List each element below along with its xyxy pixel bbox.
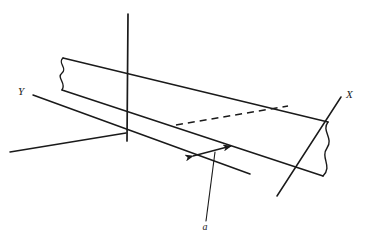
- vector-a-group: [193, 146, 231, 221]
- vector-a-leader-line: [206, 152, 215, 221]
- plane-right-wavy-edge: [323, 122, 329, 176]
- plane-outline: [60, 58, 329, 176]
- vector-a-arrow: [193, 146, 231, 156]
- plane-bottom-edge: [62, 90, 323, 176]
- coordinate-axes: [10, 14, 341, 196]
- y-axis-line: [33, 95, 250, 174]
- plane-left-wavy-edge: [60, 58, 64, 90]
- y-axis-label: Y: [18, 85, 26, 97]
- z-axis-line: [127, 14, 128, 141]
- geometry-figure: X Y a: [0, 0, 369, 241]
- plane-top-edge: [63, 58, 328, 122]
- vector-a-label: a: [203, 221, 208, 232]
- x-axis-label: X: [345, 88, 354, 100]
- hidden-trace-dashed-line: [176, 106, 288, 125]
- y-axis-negative-ray: [10, 133, 126, 152]
- figure-canvas: X Y a: [0, 0, 369, 241]
